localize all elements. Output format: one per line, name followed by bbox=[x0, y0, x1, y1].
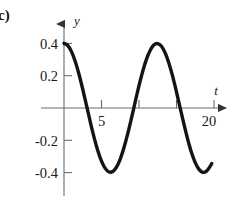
x-axis-ticks bbox=[102, 100, 215, 108]
x-tick-label-0: 5 bbox=[98, 113, 105, 129]
plot-svg: 0.4 0.2 -0.2 -0.4 5 20 y t bbox=[0, 0, 238, 199]
y-tick-label-0: 0.4 bbox=[40, 36, 59, 52]
figure-container: c) 0.4 0.2 bbox=[0, 0, 238, 199]
y-tick-label-2: -0.2 bbox=[35, 133, 58, 149]
y-axis-label: y bbox=[72, 13, 80, 28]
part-label: c) bbox=[0, 8, 10, 23]
x-axis-label: t bbox=[214, 83, 218, 98]
x-tick-label-1: 20 bbox=[202, 113, 217, 129]
y-tick-label-3: -0.4 bbox=[35, 165, 59, 181]
y-tick-label-1: 0.2 bbox=[40, 68, 58, 84]
